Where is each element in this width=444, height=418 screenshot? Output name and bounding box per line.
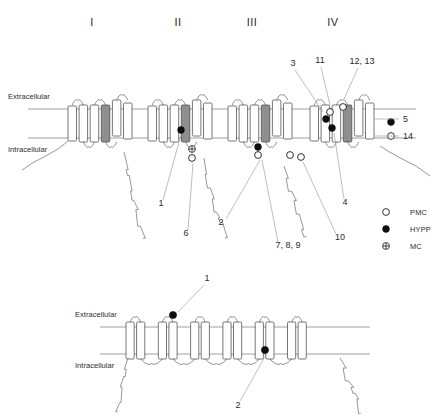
domain-numeral-III: III [247,16,258,28]
upper-marker-hypp [323,116,330,123]
callout-label: 2 [218,217,223,227]
loop-S1-S2 [232,100,243,105]
segment-2 [137,322,145,359]
segment-6 [201,322,209,359]
segment-S6 [284,103,293,139]
callout-label: 1 [204,273,209,283]
filled-circle-icon [178,127,185,134]
upper-marker-hypp [178,127,185,134]
open-circle-icon [287,152,294,159]
segment-S5 [192,100,201,136]
loop-8-9 [238,359,260,364]
loop-S5-S6 [277,95,288,100]
callout-leader-line [188,163,193,230]
callout-label: 3 [290,58,295,68]
upper-marker-pmc [189,155,196,162]
callout-leader-line [163,135,181,200]
open-circle-icon [340,104,347,111]
open-circle-icon [327,109,334,116]
upper-marker-pmc [298,154,305,161]
callout-label: 12, 13 [349,56,374,66]
figure-canvas: IIIIIIIVExtracellularIntracellular31112,… [0,0,444,418]
loop-S2-S3 [243,142,254,147]
segment-S1 [228,106,237,141]
lower-marker-hypp [169,311,176,318]
intracellular-label: Intracellular [8,145,48,154]
filled-circle-icon [329,125,336,132]
callout-leader-line [226,160,260,219]
segment-7 [223,322,231,359]
c-terminus-tail [380,146,430,176]
segment-S5 [112,100,121,136]
loop-S2-S3 [83,142,94,147]
segment-S5 [354,100,363,136]
segment-1 [126,322,134,359]
segment-S4-voltage-sensor [181,105,190,142]
filled-circle-icon [323,116,330,123]
callout-2: 2 [218,160,260,227]
loop-S2-S3 [163,142,174,147]
domain-numeral-I: I [90,16,94,28]
segment-S5 [272,100,281,136]
legend-label: HYPP [410,225,431,234]
loop-S3-S4 [254,100,265,105]
open-circle-icon [298,154,305,161]
segment-S4-voltage-sensor [343,105,352,142]
callout-leader-line [240,355,266,401]
segment-S4-voltage-sensor [261,105,270,142]
segment-4 [169,322,177,359]
upper-marker-mc [189,146,196,153]
loop-S4-S5 [266,142,277,147]
loop-5-6 [195,317,206,322]
segment-S6 [124,103,133,139]
legend-marker-hypp [383,226,390,233]
upper-marker-hypp [388,119,395,126]
callout-leader-line [262,160,278,242]
callout-11: 11 [315,55,330,105]
loop-9-10 [259,317,270,322]
segment-S3 [90,105,99,142]
lower-marker-hypp [261,346,268,353]
loop-1-2 [130,317,141,322]
segment-S1 [310,106,319,141]
domain-numeral-IV: IV [327,16,339,28]
callout-label: 6 [183,228,188,238]
segment-8 [234,322,242,359]
callout-leader-line [303,162,336,234]
callout-label: 4 [342,197,347,207]
lower-panel-chloride-channel: ExtracellularIntracellular12 [75,273,370,413]
callout-leader-line [321,67,330,105]
callout-leader-line [178,285,204,312]
c-terminus-tail [340,358,361,413]
transmembrane-domain-I [68,95,132,148]
legend-item-mc: MC [383,242,423,251]
loop-10-11 [270,359,292,364]
ion-channel-topology-diagram: IIIIIIIVExtracellularIntracellular31112,… [0,0,444,418]
legend-marker-mc [383,243,390,250]
domain-numeral-II: II [174,16,181,28]
segment-3 [158,322,166,359]
callout-label: 10 [335,232,345,242]
callout-label: 1 [158,198,163,208]
segment-S3 [250,105,259,142]
loop-S5-S6 [117,95,128,100]
segment-S3 [170,105,179,142]
segment-S2 [159,105,168,142]
upper-marker-pmc [287,152,294,159]
filled-circle-icon [383,226,390,233]
loop-S4-S5 [106,142,117,147]
legend-label: MC [410,242,422,251]
transmembrane-domain-IV [310,95,374,148]
callout-label: 14 [403,131,413,141]
filled-circle-icon [388,119,395,126]
segment-11 [288,322,296,359]
callout-leader-line [344,68,358,99]
segment-S1 [68,106,77,141]
callout-3: 3 [290,58,323,112]
legend-marker-pmc [383,209,390,216]
transmembrane-domain-III [228,95,292,148]
upper-marker-hypp [255,144,262,151]
callout-2: 2 [235,355,266,410]
intracellular-label: Intracellular [75,361,115,370]
loop-S2-S3 [325,142,336,147]
